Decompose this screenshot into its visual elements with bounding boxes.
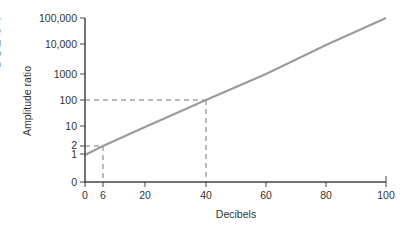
x-tick-label: 100 xyxy=(377,189,395,201)
decibel-amplitude-chart: 100,000 10,000 1000 100 10 2 1 0 0 6 20 … xyxy=(0,0,415,228)
x-axis-title: Decibels xyxy=(216,208,256,220)
x-tick-label: 60 xyxy=(260,189,272,201)
y-tick-label: 1 xyxy=(71,148,77,160)
x-tick-labels: 0 6 20 40 60 80 100 xyxy=(82,189,395,201)
data-line xyxy=(85,18,386,155)
y-tick-label: 100,000 xyxy=(39,12,77,24)
x-tick-label: 6 xyxy=(100,189,106,201)
y-tick-label: 10,000 xyxy=(45,38,77,50)
y-tick-label: 1000 xyxy=(54,68,78,80)
y-tick-label: 100 xyxy=(59,94,77,106)
y-tick-label: 10 xyxy=(65,120,77,132)
y-tick-labels: 100,000 10,000 1000 100 10 2 1 0 xyxy=(39,12,77,188)
x-tick-label: 40 xyxy=(200,189,212,201)
y-tick-label: 0 xyxy=(71,176,77,188)
x-tick-label: 20 xyxy=(139,189,151,201)
x-tick-label: 0 xyxy=(82,189,88,201)
axes xyxy=(84,18,386,183)
dashed-guides xyxy=(85,100,206,182)
y-axis-title: Amplitude ratio xyxy=(21,66,33,136)
x-tick-label: 80 xyxy=(320,189,332,201)
